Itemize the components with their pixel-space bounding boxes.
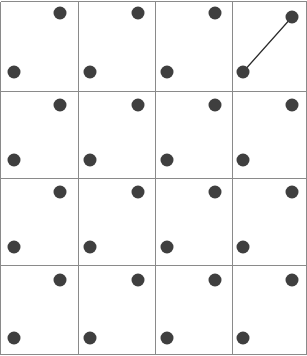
lattice-dot-r4c4-upper-right: [286, 274, 299, 287]
lattice-dot-r1c4-upper-right: [286, 11, 299, 24]
lattice-dot-r3c1-lower-left: [8, 241, 21, 254]
lattice-dot-r3c4-upper-right: [286, 186, 299, 199]
lattice-dot-r2c2-lower-left: [84, 154, 97, 167]
lattice-dot-r2c3-lower-left: [161, 154, 174, 167]
lattice-dot-r4c1-lower-left: [8, 332, 21, 345]
bonds-group: [243, 17, 292, 72]
lattice-dot-r1c2-upper-right: [132, 7, 145, 20]
bond-r1c4: [243, 17, 292, 72]
lattice-dot-r3c4-lower-left: [237, 241, 250, 254]
lattice-dot-r2c2-upper-right: [132, 99, 145, 112]
lattice-dot-r1c3-lower-left: [161, 66, 174, 79]
lattice-dot-r2c1-upper-right: [54, 99, 67, 112]
lattice-dot-r4c3-upper-right: [209, 274, 222, 287]
lattice-dot-r2c4-upper-right: [286, 99, 299, 112]
lattice-dot-r3c3-upper-right: [209, 186, 222, 199]
grid-lines-group: [1, 2, 307, 355]
lattice-dot-r4c1-upper-right: [54, 274, 67, 287]
lattice-dot-r4c4-lower-left: [237, 332, 250, 345]
lattice-dot-r3c3-lower-left: [161, 241, 174, 254]
lattice-dot-r1c4-lower-left: [237, 66, 250, 79]
lattice-dot-r1c2-lower-left: [84, 66, 97, 79]
lattice-dot-r4c3-lower-left: [161, 332, 174, 345]
lattice-dot-r2c3-upper-right: [209, 99, 222, 112]
lattice-dot-r4c2-upper-right: [132, 274, 145, 287]
lattice-dot-r2c1-lower-left: [8, 154, 21, 167]
lattice-diagram-canvas: [0, 0, 307, 356]
lattice-dot-r3c1-upper-right: [54, 186, 67, 199]
lattice-dot-r1c1-upper-right: [54, 7, 67, 20]
lattice-dot-r1c1-lower-left: [8, 66, 21, 79]
lattice-dot-r3c2-lower-left: [84, 241, 97, 254]
lattice-dot-r2c4-lower-left: [237, 154, 250, 167]
lattice-dot-r3c2-upper-right: [132, 186, 145, 199]
lattice-dot-r1c3-upper-right: [209, 7, 222, 20]
lattice-dots-group: [8, 7, 299, 345]
lattice-dot-r4c2-lower-left: [84, 332, 97, 345]
lattice-figure: [0, 0, 307, 356]
